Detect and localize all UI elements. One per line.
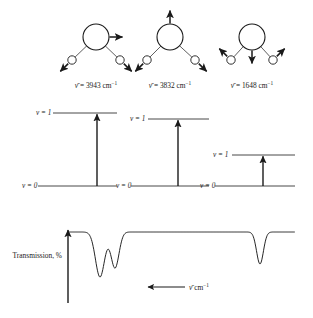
- bond-right: [180, 46, 192, 57]
- figure-canvas: ν̄ = 3943 cm−1ν̄ = 3832 cm−1ν̄ = 1648 cm…: [0, 0, 313, 318]
- upper-level-label: v = 1: [36, 109, 51, 117]
- hydrogen-atom-left: [227, 56, 235, 64]
- oxygen-atom: [157, 24, 183, 50]
- hydrogen-atom-right: [116, 56, 124, 64]
- bond-right: [105, 46, 117, 57]
- hydrogen-atom-left: [68, 56, 76, 64]
- hydrogen-right-displacement-arrow: [199, 64, 207, 72]
- hydrogen-left-displacement-arrow: [219, 49, 227, 57]
- bond-left: [75, 46, 87, 57]
- bond-left: [234, 47, 243, 57]
- energy-diagram-1: v = 1v = 0: [22, 109, 117, 190]
- y-axis-label: Transmission, %: [13, 251, 62, 260]
- transmission-spectrum: Transmission, %ν̄ cm−1: [13, 230, 295, 303]
- wavenumber-label-bend: ν̄ = 1648 cm−1: [231, 80, 274, 90]
- vibration-mode-symmetric-stretch: ν̄ = 3832 cm−1: [135, 11, 206, 91]
- hydrogen-atom-right: [269, 56, 277, 64]
- water-vibrational-modes-figure: ν̄ = 3943 cm−1ν̄ = 3832 cm−1ν̄ = 1648 cm…: [0, 0, 313, 318]
- upper-level-label: v = 1: [213, 151, 228, 159]
- wavenumber-label-asymmetric-stretch: ν̄ = 3943 cm−1: [75, 80, 118, 90]
- upper-level-label: v = 1: [130, 115, 145, 123]
- bond-right: [261, 47, 270, 57]
- lower-level-label: v = 0: [116, 182, 132, 190]
- vibration-mode-asymmetric-stretch: ν̄ = 3943 cm−1: [60, 24, 131, 90]
- oxygen-atom: [83, 24, 109, 50]
- x-axis-label: ν̄ cm−1: [189, 282, 209, 292]
- lower-level-label: v = 0: [22, 182, 38, 190]
- hydrogen-atom-right: [191, 56, 199, 64]
- vibration-mode-bend: ν̄ = 1648 cm−1: [219, 24, 284, 90]
- lower-level-label: v = 0: [200, 182, 216, 190]
- hydrogen-left-displacement-arrow: [135, 64, 143, 72]
- wavenumber-label-symmetric-stretch: ν̄ = 3832 cm−1: [149, 80, 192, 90]
- bond-left: [150, 46, 161, 57]
- energy-diagram-3: v = 1v = 0: [200, 151, 295, 190]
- hydrogen-atom-left: [143, 56, 151, 64]
- hydrogen-right-displacement-arrow: [277, 49, 285, 57]
- hydrogen-left-displacement-arrow: [60, 64, 68, 72]
- hydrogen-right-displacement-arrow: [124, 64, 132, 72]
- oxygen-atom: [239, 24, 265, 50]
- energy-diagram-2: v = 1v = 0: [116, 115, 209, 190]
- spectrum-trace: [68, 232, 295, 277]
